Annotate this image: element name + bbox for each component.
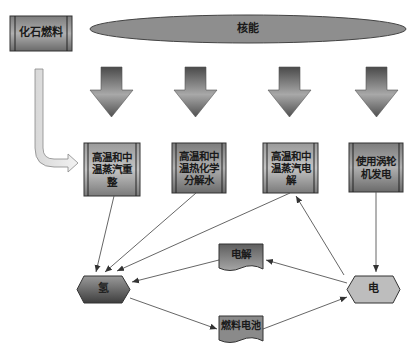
process-thermochemical-splitting: 高温和中温热化学分解水 <box>172 143 226 193</box>
process-steam-electrolysis: 高温和中温蒸汽电解 <box>263 143 318 193</box>
down-arrow-icon <box>174 67 217 117</box>
fossil-fuel-label: 化石燃料 <box>15 16 67 51</box>
fossil-to-reforming-arrow-icon <box>35 69 78 172</box>
fuel-cell-label: 燃料电池 <box>219 316 263 336</box>
down-arrow-icon <box>90 67 133 117</box>
process-turbine-generation: 使用涡轮机发电 <box>349 143 403 192</box>
down-arrow-icon <box>268 67 311 117</box>
process-steam-reforming: 高温和中温蒸汽重整 <box>84 143 140 196</box>
electrolysis-label: 电解 <box>219 244 263 264</box>
hydrogen-label: 氢 <box>77 276 130 303</box>
down-arrow-icon <box>355 67 398 117</box>
nuclear-down-arrows <box>90 67 398 117</box>
nuclear-label: 核能 <box>200 20 296 38</box>
electricity-label: 电 <box>347 276 400 303</box>
